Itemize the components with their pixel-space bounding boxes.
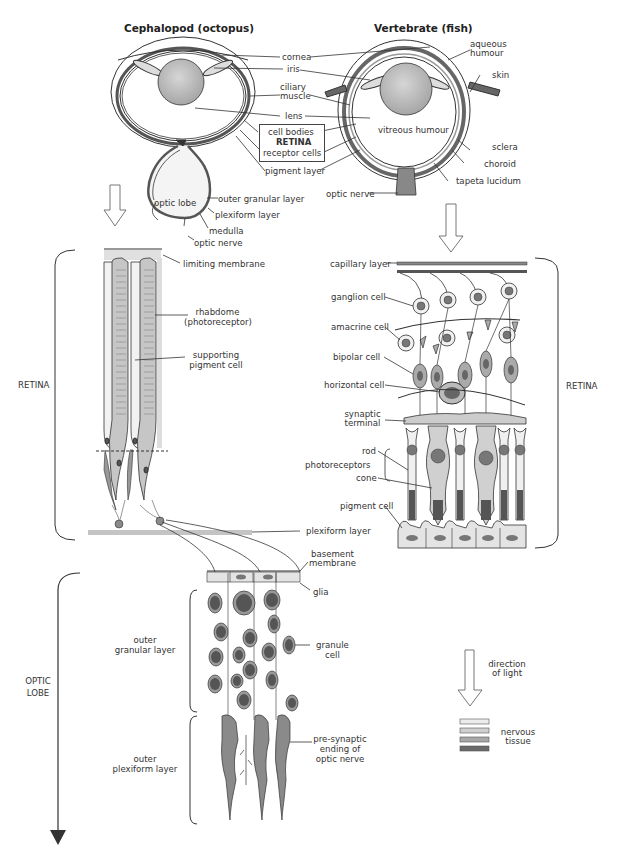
- label-ciliary-2: muscle: [280, 91, 311, 101]
- label-presynaptic-2: ending of: [310, 744, 370, 754]
- label-outer-granular-1: outer: [110, 635, 180, 645]
- label-optic-nerve-octopus: optic nerve: [194, 238, 243, 248]
- label-vitreous-humour: vitreous humour: [378, 125, 449, 135]
- label-medulla: medulla: [209, 226, 244, 236]
- label-granule-1: granule: [310, 640, 355, 650]
- label-skin: skin: [492, 70, 509, 80]
- label-rhabdome-2: (photoreceptor): [183, 317, 253, 327]
- label-outer-granular-layer: outer granular layer: [218, 194, 304, 204]
- label-aqueous-2: humour: [470, 48, 504, 58]
- octopus-retina: [55, 249, 300, 572]
- label-basement-2: membrane: [305, 558, 360, 568]
- label-optic-lobe-side-1: OPTIC: [18, 676, 58, 687]
- label-receptor-cells: receptor cells: [263, 148, 321, 158]
- label-cell-bodies: cell bodies: [268, 127, 314, 137]
- label-octopus-retina: RETINA: [18, 380, 50, 391]
- label-outer-plexiform-1: outer: [110, 754, 180, 764]
- label-plexiform-layer-retina: plexiform layer: [306, 526, 371, 536]
- label-presynaptic-3: optic nerve: [310, 754, 370, 764]
- title-cephalopod: Cephalopod (octopus): [124, 22, 254, 34]
- label-granule-2: cell: [310, 650, 355, 660]
- label-ganglion-cell: ganglion cell: [331, 292, 386, 302]
- label-pigment-layer: pigment layer: [265, 166, 325, 176]
- label-lens: lens: [285, 111, 303, 121]
- label-limiting-membrane: limiting membrane: [183, 259, 265, 269]
- label-photoreceptors: photoreceptors: [305, 460, 371, 470]
- label-capillary-layer: capillary layer: [330, 259, 391, 269]
- label-cornea: cornea: [282, 52, 311, 62]
- label-outer-plexiform-2: plexiform layer: [108, 764, 182, 774]
- label-amacrine-cell: amacrine cell: [331, 322, 389, 332]
- label-optic-nerve-fish: optic nerve: [326, 189, 375, 199]
- label-glia: glia: [313, 587, 329, 597]
- label-optic-lobe: optic lobe: [154, 198, 196, 208]
- label-supporting-2: pigment cell: [183, 360, 249, 370]
- label-cone: cone: [356, 473, 377, 483]
- label-presynaptic-1: pre-synaptic: [310, 734, 370, 744]
- label-fish-retina: RETINA: [566, 381, 598, 392]
- label-sclera: sclera: [492, 142, 518, 152]
- label-rhabdome-1: rhabdome: [190, 307, 245, 317]
- label-tapeta-lucidum: tapeta lucidum: [456, 176, 521, 186]
- legend-direction-2: of light: [482, 668, 532, 678]
- optic-lobe-section: [50, 562, 312, 845]
- label-supporting-1: supporting: [186, 350, 246, 360]
- label-bipolar-cell: bipolar cell: [333, 352, 380, 362]
- label-iris: iris: [287, 64, 300, 74]
- label-horizontal-cell: horizontal cell: [324, 380, 384, 390]
- label-optic-lobe-side-2: LOBE: [18, 688, 58, 699]
- fish-retina: [378, 258, 558, 548]
- label-retina-box: RETINA: [276, 137, 311, 147]
- label-choroid: choroid: [484, 159, 516, 169]
- light-arrow-left: [104, 185, 126, 226]
- label-outer-granular-2: granular layer: [110, 645, 180, 655]
- title-vertebrate: Vertebrate (fish): [374, 22, 473, 34]
- legend-nervous-2: tissue: [496, 736, 540, 746]
- label-synaptic-2: terminal: [340, 418, 385, 428]
- label-rod: rod: [362, 446, 376, 456]
- light-arrow-right: [439, 204, 463, 252]
- label-plexiform-layer: plexiform layer: [215, 210, 280, 220]
- label-pigment-cell: pigment cell: [340, 501, 393, 511]
